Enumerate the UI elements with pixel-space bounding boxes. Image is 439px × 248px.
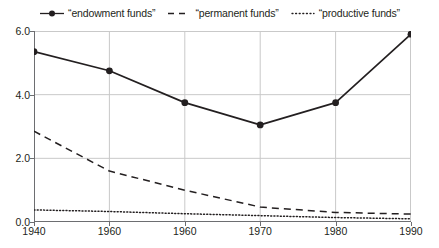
dashed-line-key-icon: [166, 8, 192, 19]
x-axis-tick-mark: [336, 222, 337, 226]
data-point-marker: [34, 48, 37, 55]
plot-area: [34, 31, 411, 222]
legend-item-endowment-funds[interactable]: “endowment funds”: [39, 8, 155, 19]
x-axis-tick-labels: 194019601960197019801990: [0, 226, 439, 244]
legend-item-productive-funds[interactable]: “productive funds”: [290, 8, 400, 19]
dotted-line-key-icon: [290, 8, 316, 19]
y-axis-tick-label: 4.0: [2, 90, 30, 101]
legend-label-permanent-funds: “permanent funds”: [195, 8, 278, 19]
y-axis-tick-labels: 0.02.04.06.0: [0, 0, 30, 248]
plot-svg: [34, 31, 411, 222]
data-point-marker: [332, 99, 339, 106]
legend-label-productive-funds: “productive funds”: [319, 8, 400, 19]
legend-label-endowment-funds: “endowment funds”: [68, 8, 155, 19]
series-line-1: [34, 131, 411, 214]
line-chart-figure: “endowment funds” “permanent funds” “pro…: [0, 0, 439, 248]
solid-marker-line-key-icon: [39, 8, 65, 19]
x-axis-tick-mark: [185, 222, 186, 226]
data-point-marker: [181, 99, 188, 106]
x-axis-tick-mark: [34, 222, 35, 226]
x-axis-tick-mark: [260, 222, 261, 226]
legend-item-permanent-funds[interactable]: “permanent funds”: [166, 8, 278, 19]
x-axis-tick-label: 1960: [173, 226, 196, 237]
data-point-marker: [106, 67, 113, 74]
x-axis-tick-label: 1980: [324, 226, 347, 237]
series-line-2: [34, 210, 411, 219]
y-axis-tick-label: 2.0: [2, 153, 30, 164]
x-axis-tick-label: 1940: [22, 226, 45, 237]
chart-legend: “endowment funds” “permanent funds” “pro…: [0, 3, 439, 23]
series-line-0: [34, 34, 411, 125]
x-axis-tick-label: 1960: [98, 226, 121, 237]
data-point-marker: [257, 122, 264, 129]
x-axis-tick-label: 1970: [249, 226, 272, 237]
x-axis-tick-mark: [109, 222, 110, 226]
x-axis-tick-label: 1990: [399, 226, 422, 237]
y-axis-tick-label: 6.0: [2, 26, 30, 37]
x-axis-tick-mark: [411, 222, 412, 226]
